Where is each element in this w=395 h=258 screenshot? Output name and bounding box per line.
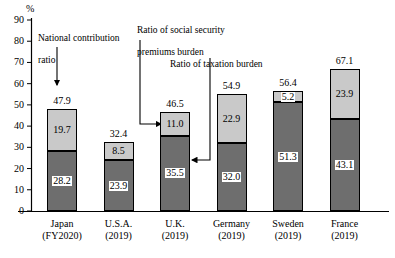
x-axis-country: France <box>331 218 358 229</box>
segment-social-security[interactable]: 23.9 <box>330 69 360 120</box>
bar-total-label: 67.1 <box>315 56 375 66</box>
bar-total-label: 56.4 <box>258 78 318 88</box>
segment-taxation[interactable]: 51.3 <box>273 102 303 211</box>
bar-germany[interactable]: 22.932.0 <box>217 94 247 211</box>
y-axis-tick-80: 80 <box>4 36 24 46</box>
segment-value-social-security: 11.0 <box>166 119 183 129</box>
y-axis-tick-70: 70 <box>4 57 24 67</box>
segment-value-taxation: 43.1 <box>335 160 355 170</box>
bar-uk[interactable]: 11.035.5 <box>160 112 190 211</box>
segment-social-security[interactable]: 11.0 <box>160 112 190 135</box>
segment-value-social-security: 22.9 <box>223 114 241 124</box>
bar-total-label: 54.9 <box>202 81 262 91</box>
segment-taxation[interactable]: 35.5 <box>160 136 190 211</box>
segment-value-social-security: 19.7 <box>53 125 71 135</box>
x-axis-country: U.K. <box>165 218 184 229</box>
bar-total-label: 47.9 <box>32 96 92 106</box>
annotation-social-line1: Ratio of social security <box>137 25 225 35</box>
bar-total-label: 46.5 <box>145 99 205 109</box>
x-axis-label-france: France(2019) <box>310 218 380 242</box>
chart-canvas: % 9080706050403020100 National contribut… <box>0 0 395 258</box>
y-axis-tick-60: 60 <box>4 79 24 89</box>
y-axis-tick-20: 20 <box>4 164 24 174</box>
annotation-taxation-burden: Ratio of taxation burden <box>170 48 300 70</box>
y-axis-unit-label: % <box>26 4 34 14</box>
annotation-national-line2: ratio <box>38 55 55 65</box>
y-axis-tick-50: 50 <box>4 100 24 110</box>
segment-value-social-security: 23.9 <box>336 89 354 99</box>
annotation-national-contribution-ratio: National contribution ratio <box>38 22 134 66</box>
bar-total-label: 32.4 <box>89 129 149 139</box>
segment-social-security[interactable]: 19.7 <box>47 109 77 151</box>
y-axis-tick-10: 10 <box>4 185 24 195</box>
x-axis-country: Germany <box>213 218 250 229</box>
y-axis-tick-0: 0 <box>4 206 24 216</box>
segment-value-taxation: 32.0 <box>222 172 242 182</box>
bar-japan[interactable]: 19.728.2 <box>47 109 77 211</box>
segment-social-security[interactable]: 8.5 <box>104 142 134 160</box>
segment-value-taxation: 23.9 <box>109 181 129 191</box>
segment-value-social-security: 5.2 <box>281 92 296 102</box>
x-axis-country: U.S.A. <box>105 218 133 229</box>
segment-social-security[interactable]: 5.2 <box>273 91 303 102</box>
bar-sweden[interactable]: 5.251.3 <box>273 91 303 211</box>
segment-taxation[interactable]: 43.1 <box>330 119 360 210</box>
segment-value-social-security: 8.5 <box>112 146 125 156</box>
segment-taxation[interactable]: 28.2 <box>47 151 77 211</box>
x-axis-year: (2019) <box>310 230 380 242</box>
segment-taxation[interactable]: 32.0 <box>217 143 247 211</box>
segment-value-taxation: 28.2 <box>52 176 72 186</box>
x-axis-country: Sweden <box>272 218 304 229</box>
segment-value-taxation: 35.5 <box>165 168 185 178</box>
x-axis-country: Japan <box>51 218 74 229</box>
annotation-tax-line1: Ratio of taxation burden <box>170 59 263 69</box>
bar-france[interactable]: 23.943.1 <box>330 69 360 211</box>
y-axis-tick-90: 90 <box>4 15 24 25</box>
y-axis-tick-40: 40 <box>4 121 24 131</box>
y-axis-tick-30: 30 <box>4 142 24 152</box>
segment-value-taxation: 51.3 <box>278 152 298 162</box>
bar-usa[interactable]: 8.523.9 <box>104 142 134 211</box>
segment-taxation[interactable]: 23.9 <box>104 160 134 211</box>
segment-social-security[interactable]: 22.9 <box>217 94 247 143</box>
annotation-national-line1: National contribution <box>38 33 120 43</box>
